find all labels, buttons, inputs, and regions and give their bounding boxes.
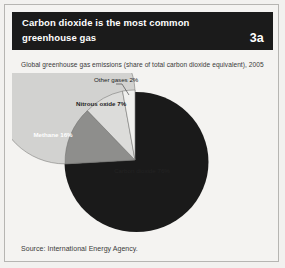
pie-label-carbon-dioxide: Carbon dioxide 76% xyxy=(107,167,177,175)
figure-number-badge: 3a xyxy=(250,31,264,45)
chart-source: Source: International Energy Agency. xyxy=(21,245,138,252)
chart-subtitle: Global greenhouse gas emissions (share o… xyxy=(21,61,264,68)
pie-label-other-gases: Other gases 2% xyxy=(94,76,138,84)
pie-chart-svg xyxy=(12,73,273,233)
pie-label-methane: Methane 16% xyxy=(31,131,75,139)
page-title: Carbon dioxide is the most common greenh… xyxy=(22,16,202,45)
pie-label-nitrous-oxide: Nitrous oxide 7% xyxy=(76,100,110,108)
figure-header: Carbon dioxide is the most common greenh… xyxy=(12,12,273,50)
pie-chart xyxy=(12,73,273,233)
figure-panel: Carbon dioxide is the most common greenh… xyxy=(4,4,279,262)
chart-plot-area: Other gases 2% Nitrous oxide 7% Methane … xyxy=(12,73,273,233)
